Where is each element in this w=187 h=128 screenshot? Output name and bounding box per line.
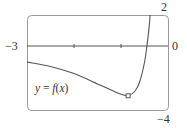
fn-label-close: ) xyxy=(65,82,69,94)
fn-label-eq: = xyxy=(40,82,52,94)
viewing-window-frame xyxy=(28,16,169,111)
x-max-label: 0 xyxy=(172,40,178,52)
x-min-label: −3 xyxy=(5,40,18,52)
y-max-label: 2 xyxy=(161,1,167,13)
function-graph xyxy=(0,0,187,128)
function-label: y = f(x) xyxy=(35,82,68,94)
y-min-label: −4 xyxy=(157,113,170,125)
minimum-point-marker xyxy=(126,94,130,98)
